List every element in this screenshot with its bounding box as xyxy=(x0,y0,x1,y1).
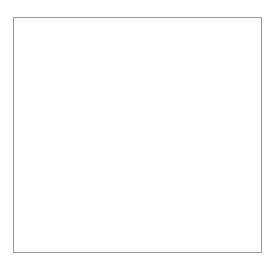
plot-frame xyxy=(13,17,262,253)
figure-root xyxy=(0,0,277,268)
